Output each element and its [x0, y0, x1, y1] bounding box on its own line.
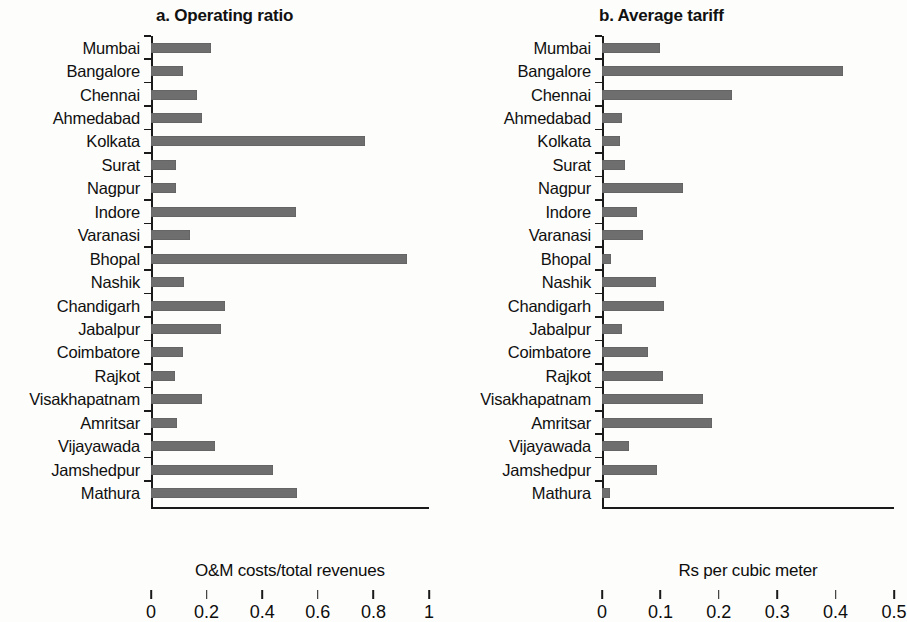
- bar: [602, 465, 657, 475]
- bar-row: Bangalore: [602, 59, 894, 82]
- bar-row: Rajkot: [602, 364, 894, 387]
- bar-row: Visakhapatnam: [602, 388, 894, 411]
- y-tick: [144, 363, 151, 365]
- y-tick: [595, 129, 602, 131]
- bar-row: Nagpur: [602, 177, 894, 200]
- bar-row: Ahmedabad: [602, 106, 894, 129]
- bar: [151, 347, 183, 357]
- x-tick: [317, 590, 319, 599]
- y-tick: [144, 129, 151, 131]
- category-label: Nagpur: [87, 179, 140, 198]
- y-tick: [595, 480, 602, 482]
- panel-average-tariff: b. Average tariff MumbaiBangaloreChennai…: [451, 0, 902, 566]
- category-label: Nashik: [91, 273, 140, 292]
- bar: [602, 90, 732, 100]
- category-label: Coimbatore: [508, 343, 591, 362]
- bar-row: Amritsar: [151, 411, 429, 434]
- bar-row: Jabalpur: [602, 317, 894, 340]
- category-label: Indore: [545, 202, 591, 221]
- y-tick: [595, 410, 602, 412]
- bar: [151, 465, 273, 475]
- bar-row: Surat: [602, 153, 894, 176]
- bar: [151, 441, 215, 451]
- bar: [602, 254, 611, 264]
- panel-b-plot-area: MumbaiBangaloreChennaiAhmedabadKolkataSu…: [602, 36, 894, 509]
- bar-row: Indore: [602, 200, 894, 223]
- x-tick: [601, 590, 603, 599]
- bar: [602, 301, 664, 311]
- x-tick-label: 0.2: [706, 602, 731, 622]
- category-label: Kolkata: [537, 132, 591, 151]
- bar: [602, 66, 843, 76]
- bar-row: Mathura: [151, 481, 429, 504]
- y-tick: [144, 316, 151, 318]
- panel-a-x-ticks: 00.20.40.60.81: [151, 590, 429, 599]
- y-tick: [595, 246, 602, 248]
- bar-row: Jabalpur: [151, 317, 429, 340]
- panel-a-x-axis: 00.20.40.60.81 O&M costs/total revenues: [151, 509, 429, 599]
- category-label: Jabalpur: [529, 319, 591, 338]
- y-tick: [144, 58, 151, 60]
- category-label: Chennai: [531, 85, 591, 104]
- bar: [151, 90, 197, 100]
- y-tick: [144, 176, 151, 178]
- bar: [151, 418, 177, 428]
- category-label: Kolkata: [86, 132, 140, 151]
- bar: [602, 418, 712, 428]
- bar: [151, 301, 225, 311]
- bar-row: Nashik: [602, 270, 894, 293]
- bar: [151, 371, 175, 381]
- panel-a-bar-rows: MumbaiBangaloreChennaiAhmedabadKolkataSu…: [151, 36, 429, 503]
- bar-row: Amritsar: [602, 411, 894, 434]
- bar-row: Varanasi: [151, 224, 429, 247]
- y-tick: [595, 58, 602, 60]
- category-label: Rajkot: [94, 366, 140, 385]
- bar-row: Mathura: [602, 481, 894, 504]
- bar-row: Bhopal: [602, 247, 894, 270]
- bar: [602, 394, 703, 404]
- bar-row: Bangalore: [151, 59, 429, 82]
- x-tick-label: 1: [424, 602, 434, 622]
- y-tick: [595, 269, 602, 271]
- bar: [602, 113, 622, 123]
- y-tick: [595, 105, 602, 107]
- x-tick-label: 0.6: [305, 602, 330, 622]
- category-label: Jamshedpur: [51, 460, 140, 479]
- x-tick-label: 0.3: [765, 602, 790, 622]
- panel-operating-ratio: a. Operating ratio MumbaiBangaloreChenna…: [0, 0, 451, 566]
- bar-row: Nagpur: [151, 177, 429, 200]
- category-label: Varanasi: [529, 226, 591, 245]
- panel-a-x-axis-title: O&M costs/total revenues: [195, 561, 385, 581]
- bar: [151, 394, 202, 404]
- bar-row: Ahmedabad: [151, 106, 429, 129]
- y-tick: [595, 363, 602, 365]
- y-tick: [144, 199, 151, 201]
- panel-b-bar-rows: MumbaiBangaloreChennaiAhmedabadKolkataSu…: [602, 36, 894, 503]
- x-tick-label: 0.2: [194, 602, 219, 622]
- bar: [602, 136, 620, 146]
- bar: [151, 230, 190, 240]
- category-label: Bhopal: [90, 249, 140, 268]
- x-tick-label: 0.4: [250, 602, 275, 622]
- y-tick: [595, 457, 602, 459]
- y-tick: [595, 152, 602, 154]
- y-tick: [144, 82, 151, 84]
- category-label: Bangalore: [518, 62, 591, 81]
- x-tick: [893, 590, 895, 599]
- y-tick: [144, 269, 151, 271]
- bar: [602, 488, 610, 498]
- x-tick-label: 0.5: [881, 602, 906, 622]
- bar-row: Surat: [151, 153, 429, 176]
- x-tick-label: 0.1: [648, 602, 673, 622]
- bar: [602, 371, 663, 381]
- x-tick-label: 0: [146, 602, 156, 622]
- bar-row: Chandigarh: [151, 294, 429, 317]
- panel-a-title: a. Operating ratio: [156, 6, 293, 26]
- bar: [602, 160, 625, 170]
- bar-row: Vijayawada: [151, 434, 429, 457]
- category-label: Vijayawada: [509, 437, 591, 456]
- bar-row: Jamshedpur: [151, 458, 429, 481]
- panel-b-title: b. Average tariff: [599, 6, 724, 26]
- bar: [151, 277, 184, 287]
